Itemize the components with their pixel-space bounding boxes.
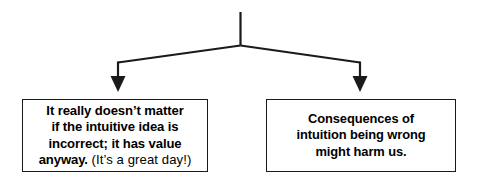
- node-text-line: might harm us.: [269, 144, 453, 160]
- node-text-line: intuition being wrong: [269, 127, 453, 143]
- right-diagonal-line: [241, 46, 361, 63]
- node-text-line: It really doesn’t matter: [25, 103, 205, 119]
- node-text-line: incorrect; it has value: [25, 136, 205, 152]
- diagram-canvas: It really doesn’t matter if the intuitiv…: [0, 0, 477, 183]
- harm-consequences-node: Consequences of intuition being wrong mi…: [266, 99, 456, 172]
- right-arrowhead-icon: [353, 76, 368, 92]
- left-arrowhead-icon: [111, 76, 126, 92]
- node-text-line: Consequences of: [269, 111, 453, 127]
- harm-consequences-node-text: Consequences of intuition being wrong mi…: [267, 111, 455, 160]
- node-aside-note: (It’s a great day!): [91, 152, 191, 167]
- value-anyway-node: It really doesn’t matter if the intuitiv…: [22, 99, 208, 172]
- node-text-line-with-aside: anyway. (It’s a great day!): [25, 152, 205, 168]
- left-diagonal-line: [118, 46, 241, 63]
- node-text-line: if the intuitive idea is: [25, 119, 205, 135]
- value-anyway-node-text: It really doesn’t matter if the intuitiv…: [23, 103, 207, 169]
- node-text-fragment: anyway.: [39, 152, 88, 167]
